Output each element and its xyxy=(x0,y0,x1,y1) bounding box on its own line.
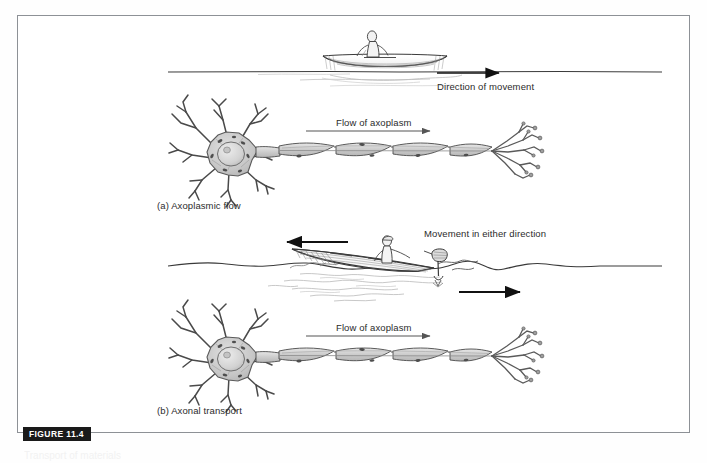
label-panel-a: (a) Axoplasmic flow xyxy=(157,200,241,211)
figure-caption-partial: Transport of materials xyxy=(24,450,121,461)
figure-number-tag: FIGURE 11.4 xyxy=(23,427,91,441)
label-direction-of-movement: Direction of movement xyxy=(437,81,534,92)
label-panel-b: (b) Axonal transport xyxy=(157,405,242,416)
figure-frame xyxy=(17,15,690,433)
figure-page: Direction of movement Flow of axoplasm (… xyxy=(0,0,707,463)
label-movement-either-direction: Movement in either direction xyxy=(424,228,546,239)
label-flow-of-axoplasm-a: Flow of axoplasm xyxy=(336,117,412,128)
label-flow-of-axoplasm-b: Flow of axoplasm xyxy=(336,322,412,333)
